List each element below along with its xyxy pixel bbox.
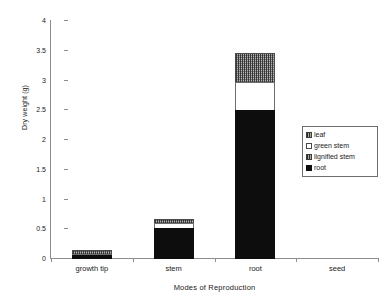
stacked-bar — [235, 53, 275, 258]
bar-group — [133, 20, 215, 258]
y-tick-label: 1.5 — [20, 166, 46, 173]
y-tick-label: 2.5 — [20, 106, 46, 113]
x-tick-mark — [215, 258, 216, 262]
bar-group — [51, 20, 133, 258]
legend-swatch-leaf — [306, 132, 312, 138]
legend-label: green stem — [314, 142, 349, 150]
x-tick-mark — [51, 258, 52, 262]
bar-segment-root — [72, 255, 112, 259]
y-tick-label: 0 — [20, 255, 46, 262]
x-tick-label: growth tip — [47, 264, 137, 273]
y-tick-label: 2 — [20, 136, 46, 143]
chart-legend: leafgreen stemlignified stemroot — [302, 126, 378, 177]
x-tick-label: seed — [292, 264, 382, 273]
y-tick-label: 0.5 — [20, 225, 46, 232]
stacked-bar — [72, 250, 112, 258]
x-tick-mark — [133, 258, 134, 262]
y-tick-label: 3.5 — [20, 47, 46, 54]
legend-item: green stem — [306, 141, 374, 151]
y-axis-tick-labels: 00.511.522.533.54 — [18, 0, 46, 300]
legend-label: leaf — [314, 131, 325, 139]
x-axis-title: Modes of Reproduction — [51, 283, 378, 292]
bar-chart: Dry weight (g) 00.511.522.533.54 growth … — [0, 0, 387, 300]
bar-segment-root — [154, 228, 194, 259]
y-tick-label: 4 — [20, 17, 46, 24]
legend-label: lignified stem — [314, 153, 355, 161]
legend-swatch-root — [306, 165, 312, 171]
y-tick-label: 3 — [20, 77, 46, 84]
x-tick-label: root — [210, 264, 300, 273]
x-tick-mark — [378, 258, 379, 262]
x-tick-label: stem — [129, 264, 219, 273]
bar-segment-lignified-stem — [235, 53, 275, 83]
legend-item: lignified stem — [306, 152, 374, 162]
legend-item: root — [306, 163, 374, 173]
legend-label: root — [314, 164, 326, 172]
y-tick-label: 1 — [20, 196, 46, 203]
x-tick-mark — [296, 258, 297, 262]
legend-swatch-lignified-stem — [306, 154, 312, 160]
bar-group — [215, 20, 297, 258]
legend-swatch-green-stem — [306, 143, 312, 149]
bar-segment-root — [235, 110, 275, 259]
bar-segment-green-stem — [235, 82, 275, 112]
legend-item: leaf — [306, 130, 374, 140]
stacked-bar — [154, 219, 194, 258]
